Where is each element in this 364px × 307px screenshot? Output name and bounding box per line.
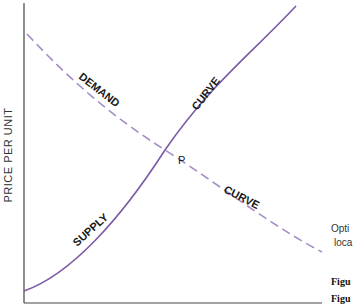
y-axis-label: PRICE PER UNIT <box>2 107 14 202</box>
equilibrium-point-label: P <box>178 154 185 166</box>
demand-curve-label: CURVE <box>222 183 262 211</box>
supply-demand-chart: PRICE PER UNIT DEMAND CURVE SUPPLY CURVE… <box>0 0 364 307</box>
side-text-line1: Opti <box>331 223 349 234</box>
figure-caption-2: Figu <box>331 293 351 304</box>
supply-curve-label: CURVE <box>189 75 222 113</box>
side-text-line2: loca <box>334 237 353 248</box>
figure-caption-1: Figu <box>331 276 351 287</box>
supply-curve <box>24 6 296 291</box>
demand-curve <box>27 34 322 252</box>
